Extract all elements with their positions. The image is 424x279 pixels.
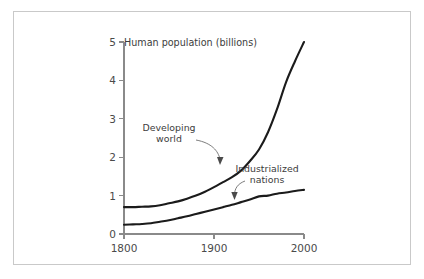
- annotation-developing-world-leader: [196, 140, 220, 159]
- x-tick-label-1800: 1800: [111, 242, 138, 254]
- figure-frame: Human population (billions) 0 1 2 3 4 5 …: [13, 11, 411, 265]
- x-axis-ticks: 1800 1900 2000: [111, 234, 318, 254]
- population-line-chart: Human population (billions) 0 1 2 3 4 5 …: [14, 12, 412, 266]
- chart-title: Human population (billions): [124, 37, 257, 48]
- y-tick-label-0: 0: [109, 228, 116, 240]
- annotation-developing-world-arrowhead: [217, 157, 224, 165]
- annotation-industrialized-nations-arrowhead: [231, 192, 237, 200]
- y-tick-label-5: 5: [109, 36, 116, 48]
- y-tick-label-2: 2: [109, 151, 116, 163]
- annotation-developing-world-line1: Developing: [142, 122, 195, 133]
- annotation-industrialized-nations-line1: Industrialized: [235, 163, 298, 174]
- x-tick-label-1900: 1900: [201, 242, 228, 254]
- y-tick-label-1: 1: [109, 190, 116, 202]
- y-tick-label-3: 3: [109, 113, 116, 125]
- y-tick-label-4: 4: [109, 74, 116, 86]
- annotation-developing-world: Developing world: [142, 122, 223, 165]
- annotation-industrialized-nations: Industrialized nations: [231, 163, 298, 200]
- annotation-developing-world-line2: world: [156, 133, 182, 144]
- annotation-industrialized-nations-line2: nations: [250, 174, 285, 185]
- y-axis-ticks: 0 1 2 3 4 5: [109, 36, 124, 240]
- x-tick-label-2000: 2000: [291, 242, 318, 254]
